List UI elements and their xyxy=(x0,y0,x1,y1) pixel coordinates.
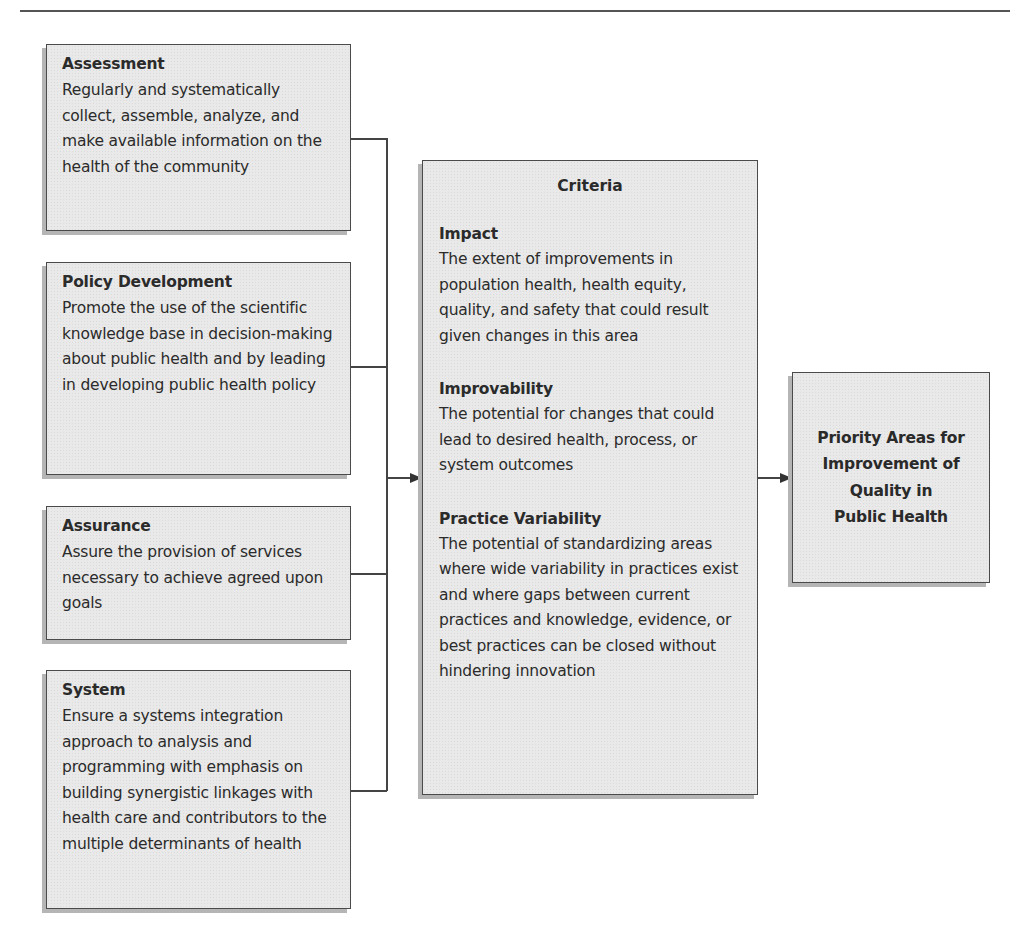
priority-areas-box: Priority Areas for Improvement of Qualit… xyxy=(792,372,990,583)
criterion-improvability: Improvability The potential for changes … xyxy=(439,378,741,479)
connector-assessment xyxy=(351,138,387,140)
connector-policy xyxy=(351,366,387,368)
criteria-box: Criteria Impact The extent of improvemen… xyxy=(422,160,758,795)
priority-areas-label: Priority Areas for Improvement of Qualit… xyxy=(817,425,965,531)
connector-system xyxy=(351,790,387,792)
criterion-title: Practice Variability xyxy=(439,508,741,530)
system-title: System xyxy=(62,679,336,701)
policy-development-title: Policy Development xyxy=(62,271,336,293)
arrow-to-priority-icon xyxy=(780,473,792,483)
system-description: Ensure a systems integration approach to… xyxy=(62,704,336,857)
connector-vertical-bus xyxy=(386,138,388,791)
criterion-title: Impact xyxy=(439,223,741,245)
criterion-description: The potential for changes that could lea… xyxy=(439,402,741,479)
arrow-to-criteria-icon xyxy=(410,473,422,483)
top-rule xyxy=(20,10,1010,12)
assessment-box: Assessment Regularly and systematically … xyxy=(46,44,351,231)
assurance-title: Assurance xyxy=(62,515,336,537)
assessment-description: Regularly and systematically collect, as… xyxy=(62,78,336,180)
assurance-box: Assurance Assure the provision of servic… xyxy=(46,506,351,640)
criterion-title: Improvability xyxy=(439,378,741,400)
criteria-heading: Criteria xyxy=(439,175,741,197)
connector-to-priority xyxy=(758,477,782,479)
connector-assurance xyxy=(351,573,387,575)
system-box: System Ensure a systems integration appr… xyxy=(46,670,351,909)
policy-development-description: Promote the use of the scientific knowle… xyxy=(62,296,336,398)
criterion-impact: Impact The extent of improvements in pop… xyxy=(439,223,741,349)
assurance-description: Assure the provision of services necessa… xyxy=(62,540,336,617)
criterion-description: The potential of standardizing areas whe… xyxy=(439,532,741,685)
connector-to-criteria xyxy=(386,477,412,479)
policy-development-box: Policy Development Promote the use of th… xyxy=(46,262,351,475)
assessment-title: Assessment xyxy=(62,53,336,75)
criterion-practice-variability: Practice Variability The potential of st… xyxy=(439,508,741,685)
criterion-description: The extent of improvements in population… xyxy=(439,247,741,349)
